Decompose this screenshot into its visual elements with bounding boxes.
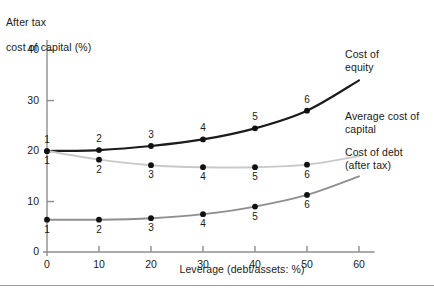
data-point-label: 6 xyxy=(300,169,314,180)
x-tick-label: 20 xyxy=(138,258,164,270)
data-point-label: 3 xyxy=(144,169,158,180)
x-tick-label: 50 xyxy=(294,258,320,270)
data-point-label: 5 xyxy=(248,171,262,182)
x-tick-label: 30 xyxy=(190,258,216,270)
y-tick-label: 10 xyxy=(13,195,39,207)
x-tick-label: 40 xyxy=(242,258,268,270)
y-axis-label-line1: After tax xyxy=(6,16,91,29)
series-annotation-2: Cost of debt(after tax) xyxy=(345,146,403,171)
data-point-label: 4 xyxy=(196,122,210,133)
series-annotation-line2: (after tax) xyxy=(345,159,403,172)
data-point-label: 2 xyxy=(92,133,106,144)
data-point-label: 4 xyxy=(196,218,210,229)
data-point-label: 1 xyxy=(40,224,54,235)
series-annotation-0: Cost ofequity xyxy=(345,48,379,73)
y-tick-label: 40 xyxy=(13,43,39,55)
footer-divider xyxy=(0,285,434,286)
y-tick-label: 30 xyxy=(13,94,39,106)
data-point-label: 1 xyxy=(40,134,54,145)
x-tick-label: 0 xyxy=(34,258,60,270)
y-tick-label: 0 xyxy=(13,245,39,257)
series-annotation-line2: capital xyxy=(345,123,419,136)
x-tick-label: 60 xyxy=(346,258,372,270)
series-annotation-line1: Cost of debt xyxy=(345,146,403,159)
data-point-label: 1 xyxy=(40,155,54,166)
data-point-label: 5 xyxy=(248,211,262,222)
y-tick-label: 20 xyxy=(13,144,39,156)
series-annotation-1: Average cost ofcapital xyxy=(345,110,419,135)
data-point-label: 6 xyxy=(300,199,314,210)
series-annotation-line2: equity xyxy=(345,61,379,74)
series-annotation-line1: Average cost of xyxy=(345,110,419,123)
chart-figure: After tax cost of capital (%) Leverage (… xyxy=(0,0,434,299)
x-tick-label: 10 xyxy=(86,258,112,270)
data-point-label: 3 xyxy=(144,129,158,140)
data-point-label: 4 xyxy=(196,171,210,182)
y-axis-label: After tax cost of capital (%) xyxy=(6,3,91,66)
data-point-label: 2 xyxy=(92,224,106,235)
data-point-label: 2 xyxy=(92,164,106,175)
data-point-label: 5 xyxy=(248,111,262,122)
series-annotation-line1: Cost of xyxy=(345,48,379,61)
data-point-label: 3 xyxy=(144,222,158,233)
data-point-label: 6 xyxy=(300,94,314,105)
